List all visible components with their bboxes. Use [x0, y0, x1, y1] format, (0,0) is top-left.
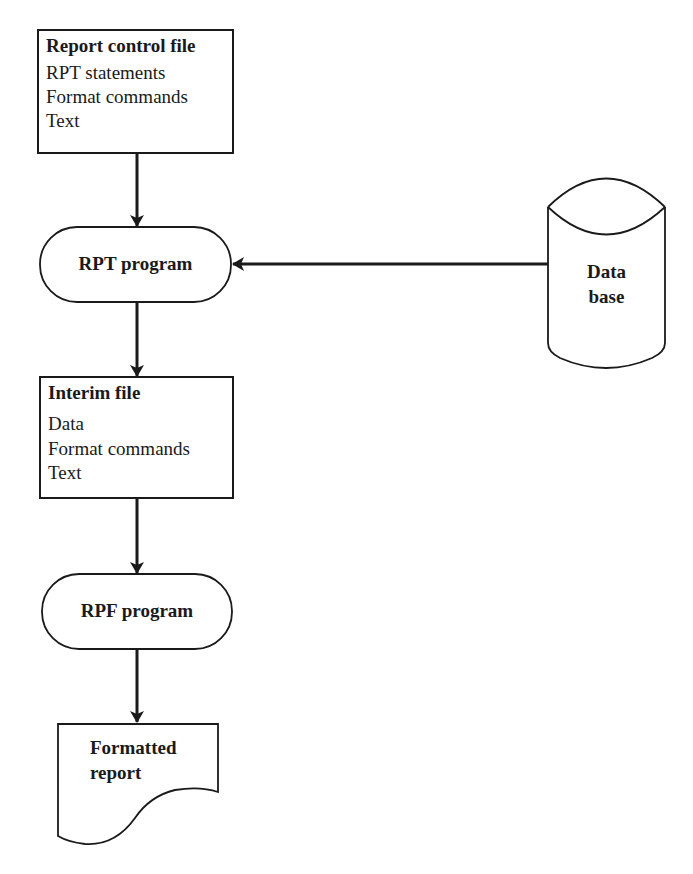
database-label-line2: base: [548, 285, 665, 309]
rpf-program-label: RPF program: [42, 599, 232, 623]
report-control-file-line: Text: [46, 109, 80, 133]
formatted-report-label-line2: report: [90, 761, 141, 785]
report-control-file-line: Format commands: [46, 85, 188, 109]
interim-file-title: Interim file: [48, 381, 140, 405]
formatted-report-label-line1: Formatted: [90, 736, 177, 760]
rpt-program-label: RPT program: [40, 252, 231, 276]
interim-file-line: Text: [48, 461, 82, 485]
database-label-line1: Data: [548, 260, 665, 284]
report-control-file-title: Report control file: [46, 34, 196, 58]
report-control-file-line: RPT statements: [46, 61, 165, 85]
interim-file-line: Data: [48, 412, 84, 436]
interim-file-line: Format commands: [48, 437, 190, 461]
